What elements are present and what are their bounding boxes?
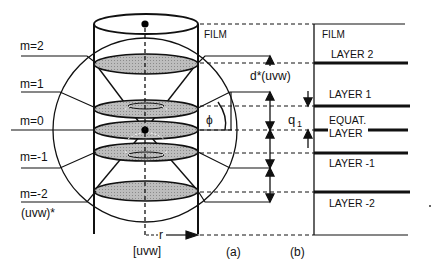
origin-dot-top [141,20,148,27]
d-star-label: d*(uvw) [250,69,291,83]
layer-label-equat: EQUAT. [329,114,366,126]
ellipse-mneg2 [94,181,198,201]
layer-label-equat-2: LAYER [329,127,363,139]
q-label: q [288,112,295,127]
layer-label-1: LAYER 1 [329,88,372,100]
axis-uvw-label: [uvw] [133,244,161,258]
film-label-b: FILM [322,29,345,40]
caption-b: (b) [290,245,305,259]
diffraction-diagram: m=2 m=1 m=0 m=-1 m=-2 (uvw)* ϕ d*(uvw) [0,0,442,272]
q1-arrows [304,91,312,148]
layer-label-neg1: LAYER -1 [329,157,375,169]
caption-a: (a) [226,245,241,259]
speck-mark [429,205,431,207]
layer-label-2: LAYER 2 [331,48,374,60]
label-mneg1: m=-1 [20,150,48,164]
ellipse-m2 [94,54,198,74]
label-m1: m=1 [20,77,44,91]
label-m2: m=2 [20,39,44,53]
label-m0: m=0 [20,114,44,128]
radius-arrow [146,231,198,239]
q-subscript: 1 [297,119,302,129]
label-reciprocal-uvw: (uvw)* [21,206,55,220]
radius-label: r [159,228,163,242]
film-label-a: FILM [204,29,227,40]
label-mneg2: m=-2 [20,187,48,201]
layer-label-neg2: LAYER -2 [329,197,375,209]
angle-phi-label: ϕ [206,113,213,127]
